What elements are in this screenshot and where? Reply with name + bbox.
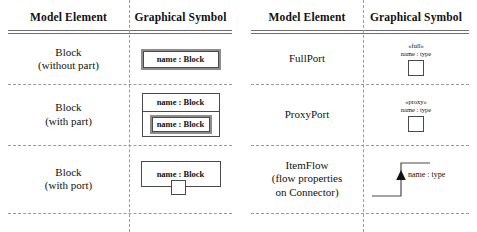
- model-element-label: Block (with port): [45, 166, 92, 193]
- item-flow-symbol: name : type: [368, 155, 464, 203]
- item-flow-label: name : type: [408, 170, 445, 179]
- header-rule-top: [251, 30, 469, 31]
- stereotype-label: «proxy»: [405, 98, 427, 106]
- composite-block-header: name : Block: [143, 94, 219, 112]
- model-element-label: ProxyPort: [285, 108, 330, 122]
- column-header-model-element: Model Element: [8, 11, 129, 23]
- table-header-right: Model Element Graphical Symbol: [251, 0, 469, 34]
- table-bottom-rule: [8, 213, 232, 214]
- table-row: FullPort: [251, 34, 363, 84]
- model-element-label: ItemFlow (flow properties on Connector): [272, 159, 343, 200]
- port-square: [408, 116, 424, 132]
- port-type-label: name : type: [401, 106, 431, 114]
- symbol-cell-item-flow: name : type: [363, 145, 469, 213]
- table-row: Block (with port): [8, 145, 129, 213]
- model-element-label: FullPort: [289, 52, 325, 66]
- table-row: ProxyPort: [251, 84, 363, 145]
- full-port-symbol: «full» name : type: [401, 42, 431, 76]
- block-box: name : Block: [143, 51, 219, 68]
- port-square: [171, 180, 186, 195]
- composite-block: name : Block name : Block: [142, 93, 220, 137]
- notation-table-right: Model Element Graphical Symbol FullPort …: [251, 0, 469, 232]
- symbol-cell-block-with-port: name : Block: [129, 145, 232, 213]
- column-header-model-element: Model Element: [251, 11, 363, 23]
- model-element-label: Block (without part): [38, 46, 99, 73]
- part-block: name : Block: [152, 117, 210, 132]
- connector-line-icon: [368, 155, 464, 203]
- column-header-graphical-symbol: Graphical Symbol: [129, 11, 232, 23]
- column-header-graphical-symbol: Graphical Symbol: [363, 11, 469, 23]
- table-header-left: Model Element Graphical Symbol: [8, 0, 232, 34]
- port-type-label: name : type: [401, 50, 431, 58]
- symbol-cell-proxy-port: «proxy» name : type: [363, 84, 469, 145]
- proxy-port-symbol: «proxy» name : type: [401, 98, 431, 132]
- table-bottom-rule: [251, 213, 469, 214]
- table-row: Block (without part): [8, 34, 129, 84]
- header-rule-top: [8, 30, 232, 31]
- symbol-cell-block-simple: name : Block: [129, 34, 232, 84]
- symbol-cell-full-port: «full» name : type: [363, 34, 469, 84]
- sysml-notation-legend: Model Element Graphical Symbol Block (wi…: [0, 0, 477, 232]
- table-row: Block (with part): [8, 84, 129, 145]
- block-with-port: name : Block: [141, 161, 221, 197]
- table-row: ItemFlow (flow properties on Connector): [251, 145, 363, 213]
- stereotype-label: «full»: [408, 42, 424, 50]
- notation-table-left: Model Element Graphical Symbol Block (wi…: [8, 0, 232, 232]
- symbol-cell-block-with-part: name : Block name : Block: [129, 84, 232, 145]
- model-element-label: Block (with part): [45, 101, 92, 128]
- port-square: [408, 60, 424, 76]
